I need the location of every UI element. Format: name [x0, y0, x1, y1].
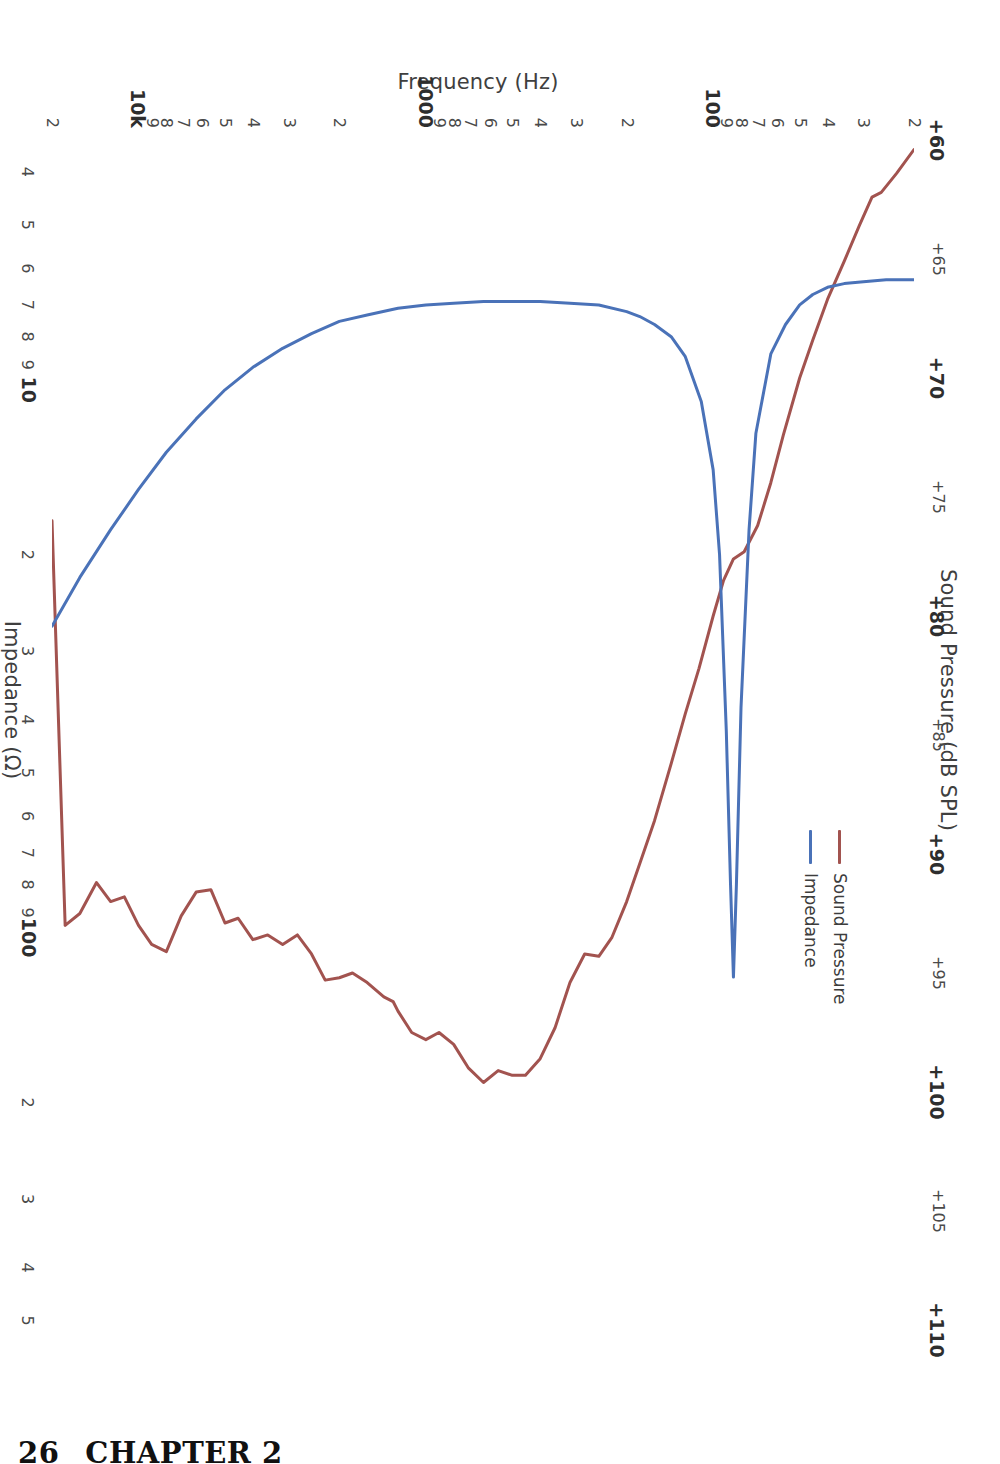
page-footer: 26CHAPTER 2: [18, 1436, 283, 1464]
bottom-tick-400: 4: [18, 1262, 37, 1272]
bottom-tick-80: 8: [18, 880, 37, 890]
left-tick-7000: 7: [174, 118, 193, 128]
left-tick-600: 6: [480, 118, 499, 128]
left-tick-200: 2: [617, 118, 636, 128]
left-tick-5000: 5: [216, 118, 235, 128]
bottom-tick-7: 7: [18, 300, 37, 310]
legend-label: Sound Pressure: [830, 873, 850, 1005]
bottom-tick-50: 5: [18, 768, 37, 778]
figure: Sound Pressure (dB SPL) Impedance (Ω) Fr…: [0, 30, 960, 1370]
curves-svg: [52, 140, 914, 1330]
left-tick-70: 7: [748, 118, 767, 128]
bottom-tick-9: 9: [18, 360, 37, 370]
left-tick-4000: 4: [243, 118, 262, 128]
top-tick-70: +70: [926, 357, 948, 399]
legend-label: Impedance: [801, 873, 821, 968]
bottom-tick-200: 2: [18, 1098, 37, 1108]
top-tick-110: +110: [926, 1302, 948, 1358]
left-tick-400: 4: [531, 118, 550, 128]
bottom-tick-4: 4: [18, 167, 37, 177]
left-tick-20000: 2: [43, 118, 62, 128]
bottom-axis-title: Impedance (Ω): [0, 30, 24, 1370]
left-tick-2000: 2: [330, 118, 349, 128]
left-tick-1000: 1000: [415, 75, 437, 128]
left-axis-title: Frequency (Hz): [348, 70, 608, 94]
left-tick-100: 100: [702, 88, 724, 128]
left-tick-40: 4: [818, 118, 837, 128]
legend: Sound PressureImpedance: [801, 830, 850, 1005]
top-tick-105: +105: [929, 1189, 948, 1233]
plot-area: +60+65+70+75+80+85+90+95+100+105+110 456…: [52, 140, 914, 1330]
bottom-tick-100: 100: [18, 918, 40, 958]
rotated-figure-wrapper: Sound Pressure (dB SPL) Impedance (Ω) Fr…: [0, 30, 960, 1370]
left-tick-60: 6: [767, 118, 786, 128]
top-tick-90: +90: [926, 833, 948, 875]
left-tick-20: 2: [905, 118, 924, 128]
bottom-tick-8: 8: [18, 332, 37, 342]
bottom-tick-30: 3: [18, 646, 37, 656]
left-tick-6000: 6: [193, 118, 212, 128]
footer-page-number: 26: [18, 1436, 59, 1464]
top-tick-60: +60: [926, 119, 948, 161]
left-tick-3000: 3: [279, 118, 298, 128]
left-tick-10000: 10k: [128, 89, 150, 128]
top-tick-85: +85: [929, 718, 948, 752]
left-tick-30: 3: [854, 118, 873, 128]
left-tick-700: 7: [461, 118, 480, 128]
top-axis-title: Sound Pressure (dB SPL): [936, 30, 960, 1370]
impedance-curve: [52, 280, 914, 977]
legend-entry-2[interactable]: Impedance: [801, 830, 821, 1005]
bottom-tick-500: 5: [18, 1316, 37, 1326]
page-root: Sound Pressure (dB SPL) Impedance (Ω) Fr…: [0, 0, 1000, 1464]
top-tick-80: +80: [926, 595, 948, 637]
footer-chapter-label: CHAPTER 2: [85, 1436, 282, 1464]
bottom-tick-300: 3: [18, 1194, 37, 1204]
left-tick-300: 3: [567, 118, 586, 128]
bottom-tick-5: 5: [18, 220, 37, 230]
bottom-tick-40: 4: [18, 715, 37, 725]
top-tick-75: +75: [929, 480, 948, 514]
bottom-tick-90: 9: [18, 908, 37, 918]
bottom-tick-10: 10: [18, 377, 40, 403]
top-tick-95: +95: [929, 956, 948, 990]
top-tick-65: +65: [929, 242, 948, 276]
legend-swatch-icon: [810, 830, 813, 864]
legend-swatch-icon: [839, 830, 842, 864]
bottom-tick-60: 6: [18, 811, 37, 821]
left-tick-500: 5: [503, 118, 522, 128]
bottom-tick-6: 6: [18, 263, 37, 273]
legend-entry-1[interactable]: Sound Pressure: [830, 830, 850, 1005]
sound-pressure-curve: [52, 150, 914, 1083]
bottom-tick-20: 2: [18, 550, 37, 560]
left-tick-50: 5: [790, 118, 809, 128]
top-tick-100: +100: [926, 1064, 948, 1120]
bottom-tick-70: 7: [18, 848, 37, 858]
